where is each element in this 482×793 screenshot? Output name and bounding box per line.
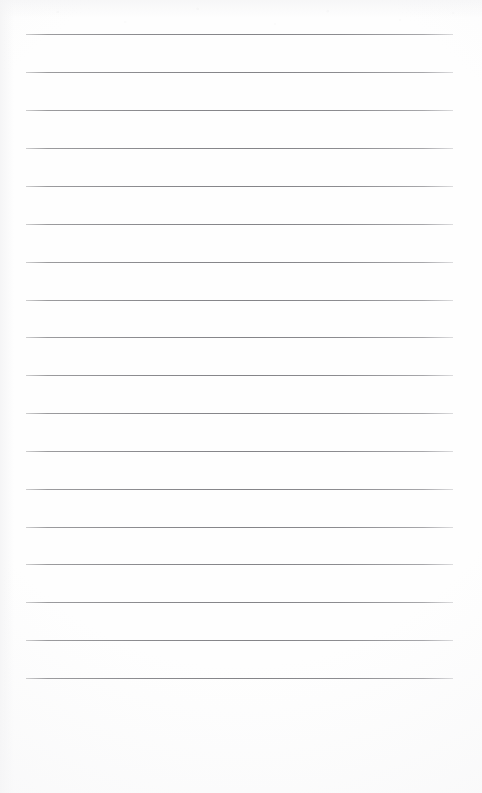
rule-line-17 [26,640,453,641]
rule-line-9 [26,337,453,338]
rule-line-13 [26,489,453,490]
notepad-page[interactable]: Blank lined notepad page [0,0,482,793]
rule-line-11 [26,413,453,414]
rule-line-14 [26,527,453,528]
rule-line-8 [26,300,453,301]
rule-line-5 [26,186,453,187]
rule-line-4 [26,148,453,149]
rule-line-3 [26,110,453,111]
rule-line-1 [26,34,453,35]
bottom-blank-margin[interactable] [0,679,482,793]
rule-line-15 [26,564,453,565]
page-title: Blank lined notepad page [0,0,1,1]
rule-line-7 [26,262,453,263]
rule-line-16 [26,602,453,603]
rule-line-12 [26,451,453,452]
rule-line-2 [26,72,453,73]
rule-line-6 [26,224,453,225]
rule-line-10 [26,375,453,376]
paper-texture-overlay [0,0,482,793]
